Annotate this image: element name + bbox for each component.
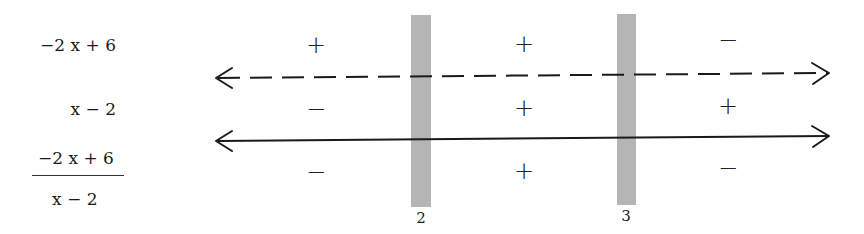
sign-row3-interval3: − [718,156,738,180]
sign-row1-interval1: + [306,33,326,57]
dashed-number-line [216,63,829,88]
sign-row2-interval3: + [718,94,738,118]
sign-row3-interval1: − [306,160,326,184]
sign-row2-interval1: − [306,97,326,121]
sign-row3-interval2: + [514,159,534,183]
sign-row1-interval3: − [718,28,738,52]
sign-row1-interval2: + [514,32,534,56]
solid-number-line [216,126,829,151]
sign-row2-interval2: + [514,96,534,120]
